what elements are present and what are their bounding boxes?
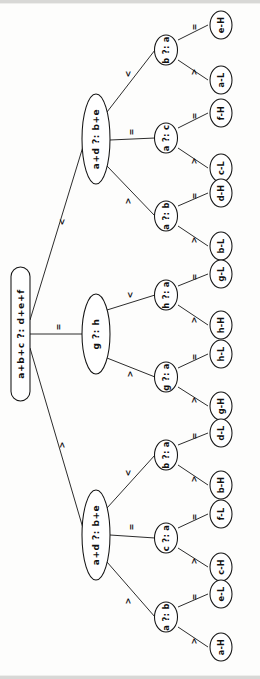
node-n6-label: b ?: a — [161, 441, 171, 469]
edge-label-mid-n4: < — [126, 292, 135, 299]
leaf-L8[interactable]: h-H — [210, 311, 232, 339]
node-branch-bottom[interactable]: a+d ?: b+e — [82, 490, 110, 580]
leaf-L2-label: a-L — [216, 73, 226, 88]
node-n5[interactable]: g ?: a — [155, 362, 178, 392]
edge-label-n5-L10: > — [190, 397, 199, 404]
node-n5-label: g ?: a — [161, 363, 171, 391]
node-n3-label: a ?: b — [161, 202, 171, 230]
node-root-label: a+b+c ?: d+e+f — [15, 289, 26, 379]
edge-label-top-n2: = — [127, 129, 136, 136]
leaf-L4[interactable]: c-L — [210, 154, 232, 182]
leaf-L9[interactable]: h-L — [210, 340, 232, 368]
leaf-L15[interactable]: e-L — [210, 580, 232, 608]
node-branch-top[interactable]: a+d ?: b+e — [82, 94, 110, 184]
edge-label-n4-L8: > — [190, 317, 199, 324]
edge-label-top-n1: < — [124, 71, 133, 78]
node-n2-label: a ?: c — [161, 125, 171, 151]
leaf-L12-label: b-H — [216, 477, 226, 494]
leaf-L6-label: b-L — [216, 238, 226, 253]
edge-root-branch-bottom — [30, 348, 85, 535]
edge-branch-top-n3 — [107, 166, 155, 216]
edge-label-n6-L12: > — [190, 476, 199, 483]
leaf-L14-label: c-H — [216, 559, 226, 575]
leaf-L9-label: h-L — [216, 346, 226, 361]
edge-label-n8-L16: > — [190, 638, 199, 645]
edge-label-n6-L11: = — [190, 433, 199, 440]
edge-branch-top-n1 — [107, 50, 155, 112]
node-n8[interactable]: a ?: b — [155, 602, 178, 632]
leaf-L3-label: f-H — [216, 106, 226, 120]
leaf-L16[interactable]: a-H — [210, 633, 232, 661]
edge-label-n7-L13: = — [190, 514, 199, 521]
node-n3[interactable]: a ?: b — [155, 201, 178, 231]
node-n4-label: h ?: a — [161, 281, 171, 308]
edge-label-n3-L6: > — [190, 237, 199, 244]
node-n7[interactable]: c ?: a — [155, 523, 178, 553]
leaf-L5-label: d-H — [216, 185, 226, 202]
leaf-L13-label: f-L — [216, 508, 226, 521]
node-n1[interactable]: b ?: a — [155, 35, 178, 65]
node-branch-top-label: a+d ?: b+e — [91, 109, 101, 169]
node-root[interactable]: a+b+c ?: d+e+f — [11, 267, 30, 401]
node-n7-label: c ?: a — [161, 525, 171, 551]
leaf-L7[interactable]: g-L — [210, 260, 232, 288]
edge-label-mid-n5: > — [126, 371, 135, 378]
leaf-L4-label: c-L — [216, 161, 226, 175]
leaf-L2[interactable]: a-L — [210, 66, 232, 94]
edge-label-root-bottom: > — [58, 442, 67, 449]
edge-label-root-middle: = — [54, 324, 63, 331]
leaf-L1[interactable]: e-H — [210, 11, 232, 39]
node-branch-bottom-label: a+d ?: b+e — [91, 505, 101, 565]
edge-label-n1-L2: > — [190, 69, 199, 76]
node-n1-label: b ?: a — [161, 36, 171, 64]
leaf-L12[interactable]: b-H — [210, 471, 232, 499]
node-n6[interactable]: b ?: a — [155, 440, 178, 470]
edge-label-n4-L7: = — [190, 274, 199, 281]
edge-root-branch-top — [30, 140, 85, 320]
leaf-L13[interactable]: f-L — [210, 500, 232, 528]
leaf-L10-label: g-H — [216, 398, 226, 415]
node-n4[interactable]: h ?: a — [155, 280, 178, 310]
leaf-L14[interactable]: c-H — [210, 553, 232, 581]
edge-label-top-n3: > — [124, 198, 133, 205]
edge-label-n2-L4: > — [190, 158, 199, 165]
edge-branch-top-n2 — [110, 138, 155, 140]
edge-branch-bottom-n8 — [107, 562, 155, 617]
edge-label-n2-L3: = — [190, 113, 199, 120]
edge-label-n8-L15: = — [190, 594, 199, 601]
edge-label-n5-L9: = — [190, 354, 199, 361]
node-n2[interactable]: a ?: c — [155, 123, 178, 153]
edges-root-to-branches — [30, 140, 85, 535]
node-branch-middle-label: g ?: h — [91, 319, 101, 350]
node-n8-label: a ?: b — [161, 603, 171, 631]
edge-label-bot-n8: > — [124, 598, 133, 605]
leaf-L1-label: e-H — [216, 17, 226, 33]
leaf-L7-label: g-L — [216, 266, 226, 281]
decision-tree-graphic: < = > < = > < > < = > = > = > = > = > = … — [0, 0, 260, 679]
leaf-L10[interactable]: g-H — [210, 392, 232, 420]
leaf-L5[interactable]: d-H — [210, 179, 232, 207]
edge-branch-bottom-n7 — [110, 535, 155, 538]
edge-branch-bottom-n6 — [107, 455, 155, 508]
leaf-L16-label: a-H — [216, 639, 226, 655]
leaf-L11-label: d-L — [216, 425, 226, 440]
edge-label-root-top: < — [58, 219, 67, 226]
leaf-L6[interactable]: b-L — [210, 232, 232, 260]
diagram-page: < = > < = > < > < = > = > = > = > = > = … — [0, 0, 260, 679]
node-branch-middle[interactable]: g ?: h — [82, 294, 110, 374]
leaf-L3[interactable]: f-H — [210, 99, 232, 127]
edge-label-n3-L5: = — [190, 193, 199, 200]
edges-branch-middle-to-inner — [107, 295, 155, 377]
edge-label-n1-L1: = — [190, 24, 199, 31]
edge-label-bot-n6: < — [124, 470, 133, 477]
leaf-L8-label: h-H — [216, 317, 226, 334]
edge-label-bot-n7: = — [127, 524, 136, 531]
leaf-L15-label: e-L — [216, 587, 226, 602]
edge-label-n7-L14: > — [190, 558, 199, 565]
edges-branch-bottom-to-inner — [107, 455, 155, 617]
leaf-L11[interactable]: d-L — [210, 419, 232, 447]
